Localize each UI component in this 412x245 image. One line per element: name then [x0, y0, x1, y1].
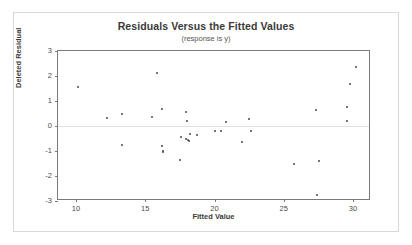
y-tick-label: -2: [32, 171, 52, 180]
data-point: [121, 144, 123, 146]
y-tick-mark: [55, 151, 58, 152]
data-point: [250, 130, 252, 132]
x-tick-label: 15: [133, 204, 157, 213]
data-point: [241, 141, 243, 143]
data-point: [346, 120, 348, 122]
data-point: [151, 116, 153, 118]
data-point: [355, 66, 357, 68]
x-tick-mark: [284, 199, 285, 202]
data-point: [225, 121, 227, 123]
data-point: [248, 118, 250, 120]
y-tick-mark: [55, 126, 58, 127]
y-tick-label: 3: [32, 46, 52, 55]
data-point: [189, 133, 191, 135]
zero-reference-line: [58, 126, 369, 127]
data-point: [180, 136, 182, 138]
y-tick-label: -3: [32, 196, 52, 205]
data-point: [156, 72, 158, 74]
chart-figure: Residuals Versus the Fitted Values (resp…: [0, 0, 412, 245]
data-point: [349, 83, 351, 85]
x-tick-mark: [353, 199, 354, 202]
data-point: [161, 145, 163, 147]
data-point: [161, 108, 163, 110]
data-point: [188, 140, 190, 142]
data-point: [346, 106, 348, 108]
chart-title: Residuals Versus the Fitted Values: [0, 20, 412, 32]
data-point: [196, 134, 198, 136]
data-point: [220, 130, 222, 132]
data-point: [214, 130, 216, 132]
data-point: [185, 111, 187, 113]
data-point: [186, 120, 188, 122]
y-tick-mark: [55, 101, 58, 102]
data-point: [77, 86, 79, 88]
chart-subtitle: (response is y): [0, 34, 412, 43]
x-tick-mark: [145, 199, 146, 202]
x-tick-label: 30: [341, 204, 365, 213]
y-tick-label: 1: [32, 96, 52, 105]
data-point: [318, 160, 320, 162]
x-tick-mark: [215, 199, 216, 202]
y-tick-mark: [55, 51, 58, 52]
y-tick-label: 2: [32, 71, 52, 80]
x-axis-label: Fitted Value: [57, 212, 370, 221]
data-point: [293, 163, 295, 165]
data-point: [121, 113, 123, 115]
y-tick-mark: [55, 201, 58, 202]
data-point: [106, 117, 108, 119]
y-axis-label: Deleted Residual: [14, 28, 23, 88]
data-point: [315, 109, 317, 111]
x-tick-label: 10: [64, 204, 88, 213]
y-tick-label: 0: [32, 121, 52, 130]
data-point: [179, 159, 181, 161]
x-tick-label: 20: [203, 204, 227, 213]
plot-area: 3210-1-2-3 1015202530: [57, 50, 370, 200]
y-tick-mark: [55, 76, 58, 77]
y-tick-label: -1: [32, 146, 52, 155]
data-point: [162, 151, 164, 153]
x-tick-mark: [76, 199, 77, 202]
y-tick-mark: [55, 176, 58, 177]
x-tick-label: 25: [272, 204, 296, 213]
data-point: [316, 194, 318, 196]
